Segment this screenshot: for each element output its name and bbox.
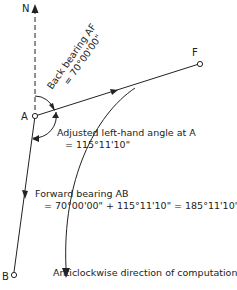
point-b-label: B xyxy=(2,271,9,282)
line-ab xyxy=(14,116,35,272)
point-a xyxy=(32,113,37,118)
direction-arrow-icon xyxy=(22,190,28,199)
forward-bearing-label-line1: Forward bearing AB xyxy=(35,188,129,199)
direction-arrow-icon xyxy=(110,89,118,95)
forward-bearing-label-line2: = 70°00'00" + 115°11'10" = 185°11'10" xyxy=(44,200,237,211)
north-meridian xyxy=(32,4,39,110)
back-bearing-label: Back bearing AF = 70°00'00" xyxy=(45,21,107,97)
point-a-label: A xyxy=(21,111,28,122)
north-arrow-icon xyxy=(32,4,39,13)
arc-arrow-icon xyxy=(52,112,59,118)
direction-label: Anticlockwise direction of computation xyxy=(53,267,237,278)
computation-direction-curve xyxy=(66,88,135,268)
point-f-label: F xyxy=(192,47,198,58)
point-f xyxy=(197,61,202,66)
arc-arrow-icon xyxy=(49,103,55,111)
north-label: N xyxy=(22,3,29,14)
angle-label-line1: Adjusted left-hand angle at A xyxy=(57,127,196,138)
point-b xyxy=(11,272,16,277)
bearing-diagram: N A F B Back bearing AF = 70°00'00" Adju… xyxy=(0,0,237,290)
back-bearing-arc xyxy=(35,96,54,110)
arc-arrow-icon xyxy=(32,135,39,142)
angle-label-line2: = 115°11'10" xyxy=(65,139,130,150)
